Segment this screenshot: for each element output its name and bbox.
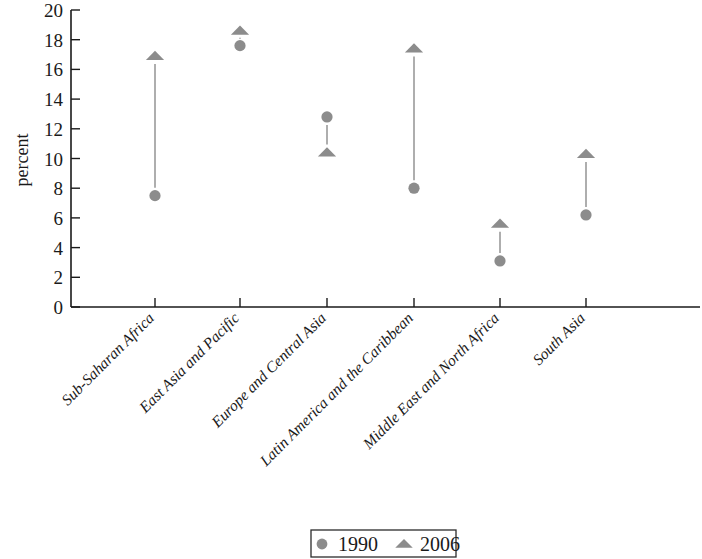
x-axis-category-label: Sub-Saharan Africa (58, 309, 157, 408)
y-tick-label: 20 (44, 0, 63, 21)
data-point-marker-1990 (149, 190, 160, 201)
y-axis-title-text: percent (12, 134, 32, 187)
y-tick-label: 0 (54, 297, 64, 318)
legend-marker-circle (317, 539, 328, 550)
y-tick-label: 10 (44, 149, 63, 170)
x-axis-category-label: Middle East and North Africa (359, 309, 503, 453)
data-point-marker-2006 (231, 25, 249, 34)
data-point-marker-2006 (491, 219, 509, 228)
y-tick-label: 2 (54, 267, 64, 288)
legend-label: 2006 (420, 533, 460, 555)
y-tick-label: 8 (54, 178, 64, 199)
y-axis-ticks: 02468101214161820 (44, 0, 80, 318)
y-tick-label: 4 (54, 238, 64, 259)
legend-label: 1990 (338, 533, 378, 555)
scatter-plot: percent 02468101214161820 Sub-Saharan Af… (0, 0, 702, 559)
legend-items: 19902006 (317, 533, 460, 555)
legend-marker-triangle (395, 539, 413, 548)
x-axis-category-label: South Asia (529, 309, 588, 368)
y-tick-label: 18 (44, 30, 63, 51)
data-point-marker-1990 (321, 111, 332, 122)
y-tick-label: 16 (44, 59, 63, 80)
data-point-marker-2006 (318, 147, 336, 156)
data-point-marker-1990 (580, 209, 591, 220)
data-point-marker-1990 (408, 183, 419, 194)
data-point-marker-2006 (577, 149, 595, 158)
y-axis-title: percent (12, 134, 32, 187)
data-marks-group (146, 25, 595, 266)
x-axis-ticks (155, 298, 586, 307)
legend: 19902006 (311, 530, 460, 557)
axes (71, 10, 700, 307)
data-point-marker-2006 (405, 43, 423, 52)
x-axis-category-label: Latin America and the Caribbean (256, 309, 417, 470)
x-axis-category-labels: Sub-Saharan AfricaEast Asia and PacificE… (58, 309, 588, 470)
chart-container: percent 02468101214161820 Sub-Saharan Af… (0, 0, 702, 559)
y-tick-label: 14 (44, 89, 64, 110)
y-tick-label: 6 (54, 208, 64, 229)
data-point-marker-1990 (234, 40, 245, 51)
y-tick-label: 12 (44, 119, 63, 140)
data-point-marker-1990 (494, 255, 505, 266)
data-point-marker-2006 (146, 51, 164, 60)
